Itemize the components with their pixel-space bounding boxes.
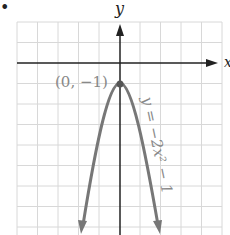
y-axis-arrow-icon bbox=[116, 24, 124, 36]
x-axis-arrow-icon bbox=[206, 59, 218, 67]
x-axis-label: x bbox=[224, 54, 230, 70]
vertex-point bbox=[117, 81, 124, 88]
graph-canvas: • y x (0, −1) y = −2x² − 1 bbox=[0, 0, 230, 235]
y-axis-label: y bbox=[114, 0, 125, 18]
bullet: • bbox=[0, 0, 9, 17]
vertex-label: (0, −1) bbox=[55, 73, 108, 91]
axes bbox=[17, 24, 218, 235]
